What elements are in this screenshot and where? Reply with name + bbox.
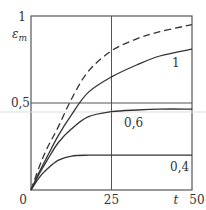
x-tick-25: 25 [104,193,119,207]
chart: 1 0,5 0 25 50 t εm 1 0,6 0,4 [0,0,206,210]
curve-label-0-4: 0,4 [170,160,189,174]
y-axis-label: εm [12,27,27,43]
x-tick-50: 50 [189,193,204,207]
curve-label-0-6: 0,6 [124,116,143,130]
y-axis-label-sub: m [18,33,27,43]
x-tick-0: 0 [19,193,27,207]
x-axis-label: t [174,193,179,207]
y-tick-0-5: 0,5 [11,96,30,110]
curve-label-1: 1 [172,56,180,70]
y-tick-1: 1 [18,10,26,24]
